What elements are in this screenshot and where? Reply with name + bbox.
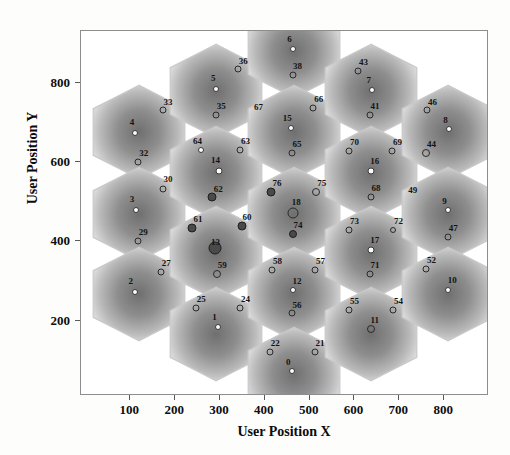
data-point-label: 30 [163,175,172,184]
data-point-label: 27 [162,259,171,268]
data-point-label: 70 [350,138,359,147]
y-tick-label: 800 [51,75,71,88]
y-tick [75,240,80,241]
data-point-label: 57 [316,257,325,266]
x-tick-label: 200 [164,403,184,416]
data-point [134,238,141,245]
data-point [346,147,353,154]
data-point [366,270,373,277]
data-point [212,112,219,119]
data-point [157,269,164,276]
x-tick-label: 100 [120,403,140,416]
data-point-label: 24 [241,295,250,304]
data-point-label: 67 [254,103,263,112]
data-point [132,289,138,295]
data-point-label: 44 [427,140,436,149]
markers-layer: 4333233029227536356414636261136059251246… [81,31,487,394]
data-point-label: 62 [214,184,223,193]
data-point [267,188,276,197]
data-point [355,67,362,74]
data-point [369,87,375,93]
x-tick [353,395,354,400]
data-point [424,107,431,114]
data-point-label: 61 [194,215,203,224]
data-point-label: 10 [448,276,457,285]
data-point-label: 66 [314,95,323,104]
data-point-label: 9 [442,196,447,205]
y-tick-label: 200 [51,313,71,326]
data-point-label: 7 [367,76,372,85]
data-point-label: 4 [130,118,135,127]
x-tick [309,395,310,400]
data-point [390,306,397,313]
x-tick-label: 600 [344,403,364,416]
data-point [446,126,452,132]
data-point [237,304,244,311]
data-point-label: 8 [443,115,448,124]
data-point [188,223,197,232]
data-point-label: 56 [293,300,302,309]
data-point [290,46,296,52]
x-tick-label: 700 [389,403,409,416]
data-point [289,368,295,374]
data-point-label: 43 [359,57,368,66]
data-point [445,207,451,213]
x-tick [398,395,399,400]
data-point-label: 75 [317,178,326,187]
data-point-label: 11 [370,315,379,324]
data-point [310,104,317,111]
data-point-label: 25 [197,295,206,304]
data-point [367,167,374,174]
plot-area: 4333233029227536356414636261136059251246… [80,30,488,395]
data-point [312,188,320,196]
data-point [312,348,319,355]
x-tick-label: 400 [254,403,274,416]
data-point [267,348,274,355]
data-point-label: 22 [271,338,280,347]
data-point-label: 54 [394,296,403,305]
data-point [366,112,373,119]
data-point [444,233,451,240]
data-point-label: 6 [287,34,292,43]
data-point [423,266,430,273]
data-point [445,287,451,293]
data-point-label: 14 [211,156,220,165]
data-point [288,310,295,317]
data-point-label: 49 [408,185,417,194]
data-point [289,71,296,78]
x-tick [443,395,444,400]
data-point-label: 35 [217,102,226,111]
data-point [133,207,139,213]
data-point-label: 21 [315,338,324,347]
data-point-label: 0 [286,357,291,366]
data-point [367,247,374,254]
y-tick [75,82,80,83]
x-tick-label: 800 [433,403,453,416]
x-tick [129,395,130,400]
data-point-label: 36 [239,56,248,65]
x-axis-label: User Position X [80,424,488,440]
data-point-label: 58 [273,257,282,266]
data-point [213,270,221,278]
data-point-label: 55 [350,296,359,305]
data-point [290,287,296,293]
data-point-label: 41 [371,102,380,111]
data-point [346,227,353,234]
data-point [237,222,246,231]
data-point-label: 46 [428,97,437,106]
data-point-label: 3 [130,195,135,204]
data-point [193,304,200,311]
data-point-label: 69 [393,138,402,147]
y-tick-label: 400 [51,234,71,247]
data-point [159,185,166,192]
data-point-label: 33 [163,97,172,106]
x-tick [174,395,175,400]
data-point-label: 74 [294,221,303,230]
data-point-label: 60 [242,213,251,222]
data-point-label: 2 [129,276,134,285]
data-point [367,325,375,333]
data-point-label: 1 [212,312,217,321]
data-point-label: 15 [283,114,292,123]
x-tick-label: 300 [209,403,229,416]
data-point [389,147,396,154]
